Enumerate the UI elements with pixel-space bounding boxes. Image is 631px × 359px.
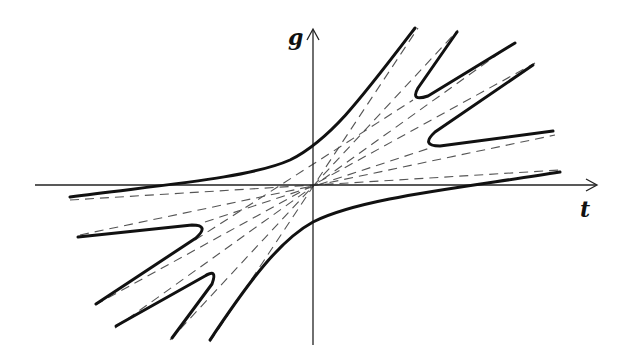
upper-right-v-inner (429, 65, 553, 146)
axes (35, 29, 597, 345)
lower-left-v-inner (116, 273, 214, 338)
t-axis-label: t (580, 196, 590, 222)
diagram-canvas (0, 0, 631, 359)
hyperbola-diagram: g t (0, 0, 631, 359)
asymptote-line-7 (195, 100, 413, 240)
lower-left-v-outer (78, 225, 202, 304)
g-axis-label: g (288, 24, 303, 50)
upper-main-branch (70, 28, 415, 197)
